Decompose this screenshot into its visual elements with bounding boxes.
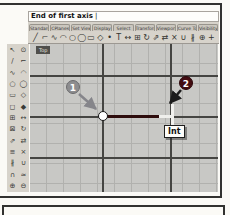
line-icon[interactable]: ∕ [11,56,13,66]
zoom-icon[interactable]: ⊕ [10,181,16,191]
array-icon[interactable]: ≡ [10,147,16,157]
scale-icon[interactable]: ⇗ [10,136,16,146]
join-icon[interactable]: ∪ [179,32,188,43]
tab-transform[interactable]: Transform [135,24,155,31]
surface-icon[interactable]: ◻ [10,102,16,112]
grid-major-hline [30,157,218,159]
circle-icon[interactable]: ○ [68,32,77,43]
tab-cplanes[interactable]: CPlanes [50,24,70,31]
tab-standard[interactable]: Standard [29,24,49,31]
rotate-icon[interactable]: ↻ [21,124,27,134]
polygon-icon[interactable]: ◇ [21,90,26,100]
select-icon[interactable]: ↖ [10,45,16,55]
split-icon[interactable]: ∦ [188,32,197,43]
fillet-icon[interactable]: ∩ [10,170,15,180]
polyline-icon[interactable]: ⌐ [21,56,27,66]
tab-curve-tools[interactable]: Curve Tools [177,24,197,31]
offset-icon[interactable]: ≈ [21,170,27,180]
axis-preview-line [104,115,159,118]
hide-icon[interactable]: ⊖ [21,181,27,191]
move-icon[interactable]: ↔ [124,32,133,43]
solid-icon[interactable]: ◆ [21,102,26,112]
tab-viewport-layout[interactable]: Viewport Layout [156,24,176,31]
mirror-icon[interactable]: ⇄ [161,32,170,43]
circle-icon[interactable]: ○ [9,79,15,89]
point-icon[interactable]: ⊙ [21,45,27,55]
point-icon[interactable]: • [105,32,114,43]
axis-start-point [98,111,108,121]
arc-icon[interactable]: ◠ [20,68,26,78]
toolbar-tab-bar: StandardCPlanesSet ViewDisplaySelectTran… [28,22,219,31]
callout-1-arrow [79,94,96,109]
curve-icon[interactable]: ∿ [10,68,16,78]
tab-visibility[interactable]: Visibility [198,24,218,31]
callout-badge-2: 2 [179,76,193,90]
mirror-icon[interactable]: ⇄ [21,136,27,146]
callout-arrows [30,44,218,192]
axis-rubberband-segment [159,115,171,118]
split-icon[interactable]: ∦ [11,158,15,168]
tab-select[interactable]: Select [113,24,133,31]
ellipse-icon[interactable]: ◯ [20,79,28,89]
command-bar[interactable]: End of first axis| [28,11,219,22]
join-icon[interactable]: ∪ [21,158,26,168]
arc-icon[interactable]: ◠ [59,32,68,43]
polygon-icon[interactable]: ◇ [96,32,105,43]
command-cursor: | [95,12,97,20]
zoom-icon[interactable]: ⊕ [198,32,207,43]
copy-icon[interactable]: ⊠ [10,124,16,134]
viewport-canvas[interactable]: 1 2 Int Top [30,44,218,192]
side-toolbar: ↖⊙∕⌐∿◠○◯▭◇◻◆⊞↔⊠↻⇗⇄≡×∦∪∩≈⊕⊖ [7,44,29,192]
rotate-icon[interactable]: ↻ [142,32,151,43]
viewport-title[interactable]: Top [36,46,50,54]
scale-icon[interactable]: ⇗ [151,32,160,43]
trim-icon[interactable]: × [21,147,27,157]
tab-set-view[interactable]: Set View [71,24,91,31]
text-icon[interactable]: T [114,32,123,43]
top-toolbar: ╱⌐∿◠○◯▭◇•T↔⊞↻⇗⇄×∪∦⊕+ [28,31,219,44]
copy-icon[interactable]: ⊞ [133,32,142,43]
move-icon[interactable]: ↔ [21,113,27,123]
trim-icon[interactable]: × [170,32,179,43]
rectangle-icon[interactable]: ▭ [87,32,96,43]
command-prompt-text: End of first axis [31,12,93,20]
line-icon[interactable]: ╱ [31,32,40,43]
curve-icon[interactable]: ∿ [50,32,59,43]
pan-icon[interactable]: + [207,32,216,43]
next-figure-frame [2,205,225,215]
mesh-icon[interactable]: ⊞ [10,113,16,123]
tab-display[interactable]: Display [92,24,112,31]
polyline-icon[interactable]: ⌐ [40,32,49,43]
osnap-tooltip: Int [164,125,185,138]
callout-badge-1: 1 [66,80,80,94]
ellipse-icon[interactable]: ◯ [77,32,86,43]
rectangle-icon[interactable]: ▭ [9,90,16,100]
